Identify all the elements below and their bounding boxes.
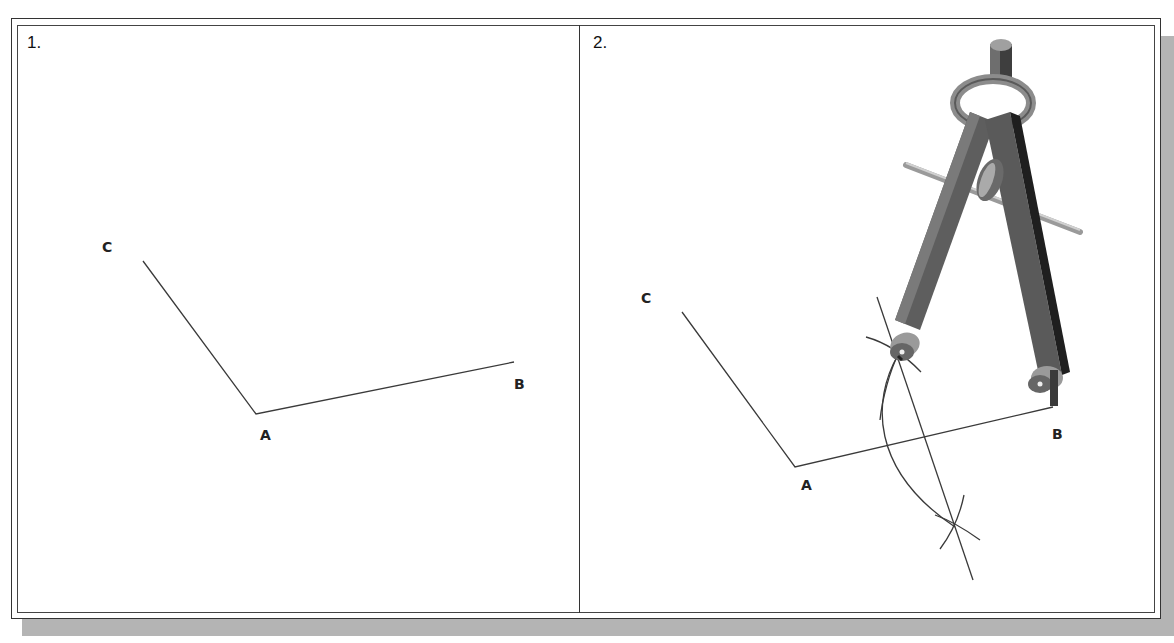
- drafting-compass-icon: [887, 39, 1080, 406]
- diagram-canvas: [0, 0, 1174, 643]
- panel-2-angle: [682, 297, 1053, 580]
- perpendicular-bisector-line: [877, 297, 973, 580]
- panel-1-angle-lines: [143, 261, 514, 414]
- construction-arc-long: [882, 355, 955, 527]
- panel-2-angle-lines: [682, 312, 1053, 467]
- panel-1-angle: [143, 261, 514, 414]
